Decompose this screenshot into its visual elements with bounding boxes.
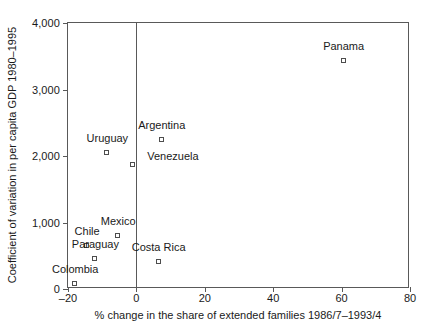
x-tick-label: 0 bbox=[133, 293, 139, 304]
data-point-label: Panama bbox=[323, 41, 364, 52]
y-tick-label: 3,000 bbox=[32, 84, 60, 95]
data-point-marker bbox=[130, 162, 135, 167]
data-point-label: Colombia bbox=[52, 264, 98, 275]
x-tick-label: 40 bbox=[267, 293, 279, 304]
x-axis-title: % change in the share of extended famili… bbox=[67, 309, 409, 321]
y-tick-mark bbox=[63, 223, 68, 224]
data-point-marker bbox=[115, 233, 120, 238]
data-point-marker bbox=[104, 150, 109, 155]
x-tick-label: 20 bbox=[199, 293, 211, 304]
y-tick-label: 2,000 bbox=[32, 151, 60, 162]
data-point-label: Mexico bbox=[101, 216, 136, 227]
data-point-label: Costa Rica bbox=[132, 242, 186, 253]
data-point-label: Paraguay bbox=[72, 239, 119, 250]
data-point-label: Venezuela bbox=[147, 151, 198, 162]
plot-area: 01,0002,0003,0004,000 –20020406080 Panam… bbox=[67, 22, 409, 288]
y-tick-mark bbox=[63, 90, 68, 91]
y-axis-title-text: Coefficient of variation in per capita G… bbox=[6, 27, 18, 283]
data-point-label: Argentina bbox=[138, 120, 185, 131]
x-tick-label: 60 bbox=[335, 293, 347, 304]
y-tick-label: 4,000 bbox=[32, 18, 60, 29]
scatter-chart-figure: Coefficient of variation in per capita G… bbox=[0, 0, 426, 330]
x-tick-label: 80 bbox=[404, 293, 416, 304]
data-point-marker bbox=[72, 281, 77, 286]
y-tick-label: 1,000 bbox=[32, 217, 60, 228]
y-tick-mark bbox=[63, 156, 68, 157]
y-axis-title: Coefficient of variation in per capita G… bbox=[4, 22, 20, 288]
clipped-chart-title bbox=[0, 0, 426, 1]
data-point-marker bbox=[92, 256, 97, 261]
y-tick-mark bbox=[63, 23, 68, 24]
data-point-label: Uruguay bbox=[87, 133, 129, 144]
data-point-marker bbox=[156, 259, 161, 264]
x-axis-title-text: % change in the share of extended famili… bbox=[95, 309, 382, 321]
data-point-marker bbox=[341, 58, 346, 63]
data-point-label: Chile bbox=[75, 226, 100, 237]
x-tick-label: –20 bbox=[59, 293, 77, 304]
data-point-marker bbox=[159, 137, 164, 142]
